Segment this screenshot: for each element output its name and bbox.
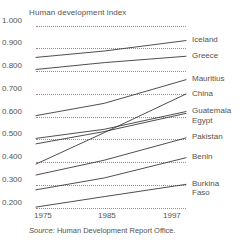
legend-label-mauritius: Mauritius — [192, 74, 224, 83]
legend-label-burkina-faso: BurkinaFaso — [192, 179, 219, 197]
series-line-china — [36, 94, 186, 164]
y-axis-tick-label: 0.200 — [2, 198, 35, 207]
y-axis-tick-label: 0.400 — [2, 152, 35, 161]
y-axis-tick-label: 0.700 — [2, 84, 35, 93]
y-axis-tick-label: 1.000 — [2, 16, 35, 25]
x-axis-tick-label: 1975 — [34, 211, 52, 220]
legend-label-line1: Pakistan — [192, 132, 223, 141]
legend-label-line1: Mauritius — [192, 74, 224, 83]
legend-label-china: China — [192, 89, 213, 98]
series-line-mauritius — [36, 79, 186, 115]
legend-label-line1: Iceland — [192, 35, 218, 44]
legend-label-iceland: Iceland — [192, 35, 218, 44]
y-axis-tick-label: 0.600 — [2, 107, 35, 116]
source-label: Source: — [29, 226, 55, 235]
gridline — [36, 208, 186, 209]
legend-label-line1: Benin — [192, 152, 212, 161]
y-axis-tick-label: 0.500 — [2, 129, 35, 138]
series-line-pakistan — [36, 137, 186, 174]
series-line-iceland — [36, 40, 186, 57]
y-axis-tick-label: 0.300 — [2, 175, 35, 184]
legend-label-egypt: Egypt — [192, 116, 212, 125]
legend-label-pakistan: Pakistan — [192, 132, 223, 141]
series-lines-group — [36, 26, 186, 208]
series-line-benin — [36, 157, 186, 189]
legend-label-greece: Greece — [192, 51, 218, 60]
x-axis-tick-label: 1985 — [98, 211, 116, 220]
legend-label-line1: Burkina — [192, 179, 219, 188]
legend-label-line2: Faso — [192, 188, 219, 197]
chart-title: Human development index — [29, 8, 126, 17]
y-axis-tick-label: 0.900 — [2, 38, 35, 47]
series-line-greece — [36, 56, 186, 69]
series-line-guatemala — [36, 111, 186, 138]
source-note: Source: Human Development Report Office. — [29, 226, 176, 235]
x-axis-tick-label: 1997 — [163, 211, 181, 220]
y-axis-tick-label: 0.800 — [2, 61, 35, 70]
legend-label-benin: Benin — [192, 152, 212, 161]
legend-label-line1: Egypt — [192, 116, 212, 125]
chart-container: Human development index 1.0000.9000.8000… — [0, 0, 246, 241]
series-line-egypt — [36, 113, 186, 143]
legend-label-guatemala: Guatemala — [192, 106, 231, 115]
series-line-burkina-faso — [36, 184, 186, 207]
legend-label-line1: China — [192, 89, 213, 98]
legend-label-line1: Guatemala — [192, 106, 231, 115]
source-text: Human Development Report Office. — [55, 226, 176, 235]
legend-label-line1: Greece — [192, 51, 218, 60]
